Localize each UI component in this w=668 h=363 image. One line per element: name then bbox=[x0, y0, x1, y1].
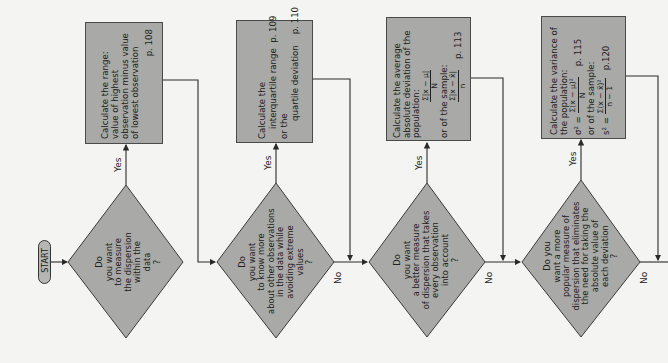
page-ref: p.120 bbox=[600, 46, 610, 71]
action-box-range: Calculate the range:value of highest obs… bbox=[85, 22, 163, 144]
yes-label-1: Yes bbox=[113, 157, 123, 172]
no-label-4: No bbox=[639, 272, 649, 284]
action-box-avg-abs-deviation: Calculate the averageabsolute deviation … bbox=[386, 17, 471, 141]
yes-label-4: Yes bbox=[568, 151, 578, 166]
decision-3-text: Doyou want a better measureof dispersion… bbox=[393, 208, 460, 312]
sample-variance-formula: Σ(x − x̄)²n − 1 bbox=[597, 78, 615, 114]
decision-1-text: Doyou want to measurethe dispersion with… bbox=[95, 224, 162, 300]
sample-formula: Σ|x − x̄|n bbox=[449, 70, 467, 102]
no-label-2: No bbox=[333, 272, 343, 284]
page-ref: p. 108 bbox=[140, 29, 154, 139]
action-box-variance: Calculate the variance ofthe population:… bbox=[541, 16, 626, 139]
population-variance-formula: Σ(x − μ)²N bbox=[569, 77, 587, 113]
action-box-quartile: Calculate the interquartile range p. 109… bbox=[236, 20, 313, 143]
population-formula: Σ|x − μ|N bbox=[422, 70, 440, 102]
decision-4-text: Do youwant a more popular measure ofdisp… bbox=[543, 201, 620, 311]
start-terminal: START bbox=[38, 240, 51, 284]
dispersion-flowchart: START Doyou want to measurethe dispersio… bbox=[0, 0, 668, 363]
page-ref: p. 109 bbox=[268, 15, 278, 42]
no-label-3: No bbox=[484, 272, 494, 284]
yes-label-2: Yes bbox=[263, 155, 273, 170]
page-ref: p. 113 bbox=[453, 32, 463, 59]
yes-label-3: Yes bbox=[414, 155, 424, 170]
decision-2-text: Doyou want to know moreabout other obser… bbox=[238, 210, 315, 314]
page-ref: p. 115 bbox=[573, 39, 583, 66]
page-ref: p. 110 bbox=[290, 7, 300, 34]
start-label: START bbox=[41, 240, 50, 282]
